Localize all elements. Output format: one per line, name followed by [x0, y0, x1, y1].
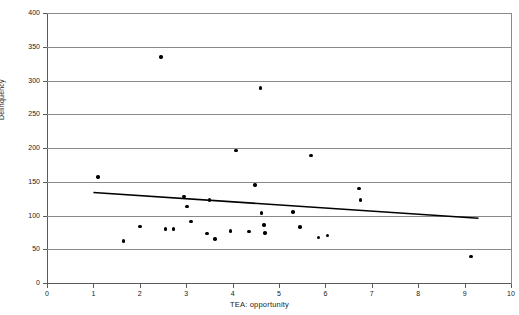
y-tick-label: 300	[0, 77, 40, 85]
x-tick-mark	[372, 284, 373, 288]
data-point	[259, 86, 262, 89]
x-tick-mark	[140, 284, 141, 288]
data-point	[138, 225, 141, 228]
data-point	[359, 198, 362, 201]
plot-right-border	[511, 13, 512, 284]
x-tick-label: 6	[315, 290, 335, 298]
x-tick-label: 0	[37, 290, 57, 298]
data-point	[164, 227, 167, 230]
x-axis-title: TEA: opportunity	[0, 300, 519, 309]
x-tick-mark	[186, 284, 187, 288]
data-point	[159, 55, 162, 58]
x-tick-mark	[233, 284, 234, 288]
y-tick-label: 200	[0, 144, 40, 152]
data-point	[260, 211, 263, 214]
x-tick-label: 3	[176, 290, 196, 298]
x-tick-label: 1	[83, 290, 103, 298]
scatter-chart: Delinquency 050100150200250300350400 012…	[0, 0, 519, 315]
data-point	[213, 237, 216, 240]
data-point	[247, 230, 250, 233]
plot-area	[47, 13, 511, 283]
data-point	[96, 175, 99, 178]
x-tick-mark	[418, 284, 419, 288]
y-tick-label: 50	[0, 245, 40, 253]
x-tick-label: 10	[501, 290, 519, 298]
y-tick-label: 150	[0, 178, 40, 186]
y-tick-label: 250	[0, 110, 40, 118]
data-point	[298, 225, 301, 228]
y-tick-label: 350	[0, 43, 40, 51]
data-point	[172, 227, 175, 230]
x-tick-label: 5	[269, 290, 289, 298]
trendline	[47, 13, 511, 283]
data-point	[357, 187, 360, 190]
x-tick-mark	[511, 284, 512, 288]
x-tick-label: 2	[130, 290, 150, 298]
y-tick-label: 0	[0, 279, 40, 287]
data-point	[309, 154, 312, 157]
data-point	[253, 183, 256, 186]
y-tick-label: 100	[0, 212, 40, 220]
data-point	[229, 229, 232, 232]
y-tick-label: 400	[0, 9, 40, 17]
data-point	[122, 239, 125, 242]
x-tick-label: 8	[408, 290, 428, 298]
data-point	[208, 198, 211, 201]
x-tick-label: 9	[455, 290, 475, 298]
x-tick-mark	[325, 284, 326, 288]
data-point	[234, 149, 237, 152]
x-tick-mark	[465, 284, 466, 288]
data-point	[182, 195, 185, 198]
x-tick-mark	[279, 284, 280, 288]
data-point	[262, 223, 265, 226]
data-point	[291, 210, 294, 213]
x-tick-mark	[93, 284, 94, 288]
x-tick-label: 4	[223, 290, 243, 298]
x-tick-label: 7	[362, 290, 382, 298]
data-point	[189, 220, 192, 223]
x-tick-mark	[47, 284, 48, 288]
data-point	[263, 231, 266, 234]
